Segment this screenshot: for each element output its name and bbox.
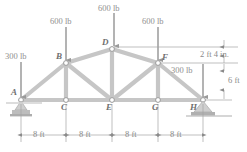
load-label-A: 300 lb	[5, 52, 27, 61]
joint-label-F: F	[162, 53, 168, 62]
load-label-H: 300 lb	[171, 66, 193, 75]
dimension-label-span-E-G: 8 ft	[125, 130, 137, 139]
joint-label-C: C	[61, 103, 67, 112]
member-E-F	[112, 63, 158, 100]
joint-D	[110, 47, 115, 52]
support-A	[6, 101, 42, 116]
dimension-label-span-C-E: 8 ft	[79, 130, 91, 139]
dimension-label-span-A-C: 8 ft	[33, 130, 45, 139]
member-D-F	[112, 49, 158, 63]
dimension-label-span-G-H: 8 ft	[170, 130, 182, 139]
member-A-B	[21, 63, 66, 100]
joint-label-B: B	[56, 52, 62, 61]
joint-label-H: H	[190, 103, 197, 112]
member-B-E	[66, 63, 112, 100]
joint-label-G: G	[152, 103, 159, 112]
joint-B	[64, 61, 69, 66]
dimension-label-rise-D-F: 2 ft 4 in.	[200, 50, 229, 59]
joint-label-E: E	[106, 103, 112, 112]
joint-F	[156, 61, 161, 66]
joint-label-D: D	[102, 38, 109, 47]
dimension-label-rise-F-H: 6 ft	[228, 76, 240, 85]
load-label-F: 600 lb	[142, 17, 164, 26]
member-B-D	[66, 49, 112, 63]
joint-label-A: A	[11, 88, 17, 97]
load-label-D: 600 lb	[98, 4, 120, 13]
truss-diagram-figure: 300 lb 600 lb 600 lb 600 lb 300 lb A B C…	[0, 0, 247, 152]
load-label-B: 600 lb	[50, 17, 72, 26]
